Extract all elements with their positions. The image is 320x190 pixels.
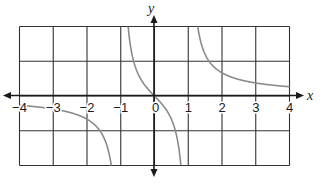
y-axis-label: y — [146, 1, 155, 16]
x-tick-label: −1 — [113, 100, 128, 115]
branch-right — [198, 26, 290, 86]
y-axis-arrow-up-icon — [151, 15, 158, 23]
x-axis-arrow-right-icon — [296, 92, 304, 99]
y-axis-arrow-down-icon — [151, 169, 158, 177]
x-tick-labels: −4−3−2−101234 — [12, 100, 293, 115]
x-tick-label: 4 — [286, 100, 293, 115]
x-axis-label: x — [306, 88, 314, 103]
x-tick-label: 2 — [218, 100, 225, 115]
x-tick-label: −2 — [80, 100, 95, 115]
branch-left — [20, 105, 112, 165]
x-tick-label: 3 — [252, 100, 259, 115]
x-tick-label: 1 — [185, 100, 192, 115]
x-tick-label: 0 — [152, 100, 159, 115]
function-graph: x y −4−3−2−101234 — [0, 0, 320, 190]
x-tick-label: −4 — [12, 100, 27, 115]
x-tick-label: −3 — [46, 100, 61, 115]
x-axis-arrow-left-icon — [3, 92, 11, 99]
